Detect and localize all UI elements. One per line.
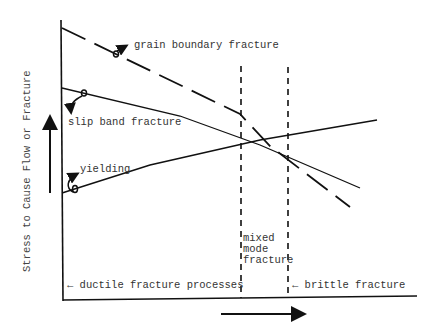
grain-boundary-label: grain boundary fracture bbox=[134, 39, 279, 51]
brittle-region-label: ← brittle fracture bbox=[292, 279, 405, 291]
fracture-mechanism-diagram: grain boundary fracture slip band fractu… bbox=[0, 0, 438, 335]
mixed-mode-label-line3: fracture bbox=[243, 254, 293, 266]
yielding-pointer-icon bbox=[68, 174, 77, 193]
yielding-label: yielding bbox=[80, 163, 130, 175]
x-axis bbox=[63, 296, 417, 300]
ductile-region-label: ← ductile fracture processes bbox=[67, 279, 243, 291]
y-axis bbox=[61, 20, 63, 301]
y-axis-label: Stress to Cause Flow or Fracture bbox=[21, 70, 33, 272]
grain-boundary-pointer-icon bbox=[114, 46, 127, 57]
slip-band-label: slip band fracture bbox=[68, 116, 181, 128]
